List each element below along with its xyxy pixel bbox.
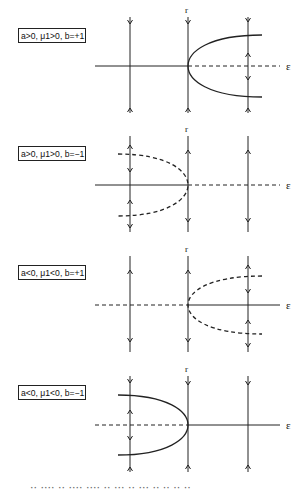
- panel-1-epsilon-label: ε: [286, 60, 291, 72]
- panel-4-r-label: r: [185, 364, 188, 374]
- panel-2-epsilon-label: ε: [286, 179, 291, 191]
- panel-1-condition-label: a>0, μ1>0, b=+1: [18, 28, 86, 43]
- panel-4-epsilon-label: ε: [286, 419, 291, 431]
- panel-3-r-label: r: [185, 244, 188, 254]
- panel-3-epsilon-label: ε: [286, 299, 291, 311]
- figure-caption-clipped: ·· ···· ·· ···· ···· ·· ··· ·· ··· ·· ··…: [30, 482, 290, 493]
- panel-1-r-label: r: [185, 5, 188, 15]
- panel-4-condition-label: a<0, μ1<0, b=−1: [18, 385, 86, 400]
- panel-2-condition-label: a>0, μ1>0, b=−1: [18, 146, 86, 161]
- panel-2-r-label: r: [185, 124, 188, 134]
- panel-3-condition-label: a<0, μ1<0, b=+1: [18, 265, 86, 280]
